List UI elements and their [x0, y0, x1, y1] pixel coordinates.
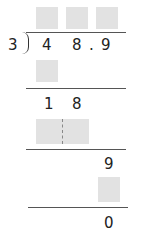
- division-bracket: [22, 32, 29, 54]
- quotient-box-tenths-2[interactable]: [96, 7, 118, 29]
- dividend-digit-9: 9: [101, 38, 111, 53]
- dividend-digit-4: 4: [42, 38, 52, 53]
- quotient-box-ones[interactable]: [36, 7, 58, 29]
- step1-product-box[interactable]: [36, 60, 58, 82]
- step2-box-divider: [62, 119, 63, 144]
- division-bar: [26, 32, 126, 33]
- decimal-point: .: [89, 38, 94, 53]
- dividend-digit-8: 8: [72, 38, 82, 53]
- step2-subtraction-line: [26, 149, 126, 150]
- final-remainder: 0: [104, 216, 114, 231]
- divisor: 3: [8, 38, 18, 53]
- quotient-box-tenths-1[interactable]: [66, 7, 88, 29]
- step2-digit-1: 1: [44, 97, 54, 112]
- step1-subtraction-line: [26, 88, 126, 89]
- step3-bring-down-9: 9: [104, 157, 114, 172]
- step2-digit-8: 8: [72, 97, 82, 112]
- step3-product-box[interactable]: [98, 177, 120, 202]
- step3-subtraction-line: [28, 207, 128, 208]
